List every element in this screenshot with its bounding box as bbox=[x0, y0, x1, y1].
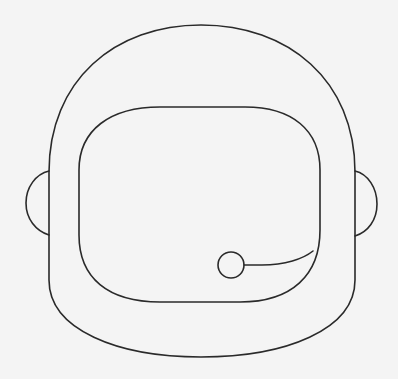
visor bbox=[79, 107, 320, 302]
left-ear-piece bbox=[26, 171, 49, 235]
microphone-boom bbox=[244, 251, 313, 265]
helmet-shell bbox=[49, 25, 355, 357]
microphone-icon bbox=[218, 252, 244, 278]
right-ear-piece bbox=[355, 171, 377, 236]
astronaut-helmet-illustration bbox=[0, 0, 398, 379]
helmet-drawing bbox=[0, 0, 398, 379]
